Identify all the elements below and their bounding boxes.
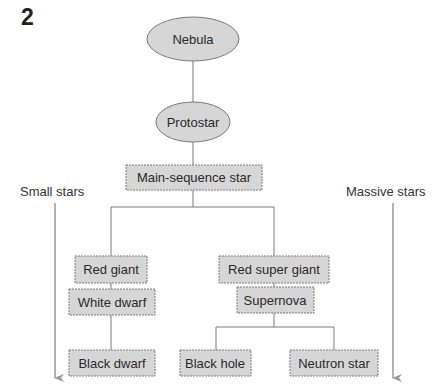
- node-supernova-label: Supernova: [244, 293, 308, 308]
- node-nebula-label: Nebula: [172, 32, 214, 47]
- star-lifecycle-diagram: Nebula Protostar Main-sequence star Red …: [0, 0, 441, 390]
- node-main-sequence-label: Main-sequence star: [137, 170, 252, 185]
- node-nebula: Nebula: [147, 17, 239, 61]
- node-protostar: Protostar: [156, 102, 230, 142]
- node-protostar-label: Protostar: [167, 115, 220, 130]
- node-black-dwarf-label: Black dwarf: [78, 356, 146, 371]
- node-red-giant-label: Red giant: [83, 262, 139, 277]
- node-black-hole-label: Black hole: [185, 356, 245, 371]
- node-red-super-giant-label: Red super giant: [228, 262, 320, 277]
- node-white-dwarf-label: White dwarf: [78, 295, 147, 310]
- node-neutron-star-label: Neutron star: [298, 356, 370, 371]
